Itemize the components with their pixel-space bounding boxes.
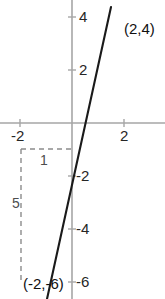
point-label-lower: (-2,-6): [23, 276, 64, 291]
x-tick-label-minus2: -2: [11, 128, 24, 143]
y-tick-label-4: 4: [79, 9, 87, 24]
point-label-upper: (2,4): [124, 21, 155, 36]
graph-figure: 4 2 -2 -4 -6 -2 2 (2,4) (-2,-6) 1 5: [0, 0, 165, 299]
y-tick-label-minus6: -6: [76, 274, 89, 289]
coordinate-plane-svg: [0, 0, 165, 299]
y-tick-label-2: 2: [79, 62, 87, 77]
x-tick-label-2: 2: [120, 128, 128, 143]
y-tick-label-minus2: -2: [76, 168, 89, 183]
run-dimension-label: 1: [40, 153, 48, 167]
plotted-line: [47, 7, 111, 299]
rise-dimension-label: 5: [12, 196, 20, 210]
y-tick-label-minus4: -4: [76, 221, 89, 236]
